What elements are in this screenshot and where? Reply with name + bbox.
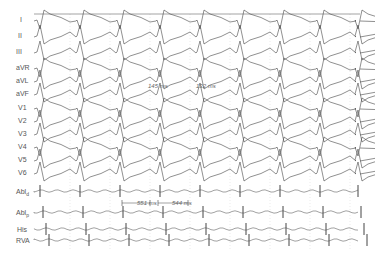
lead-label-V6: V6 — [18, 169, 27, 176]
ecg-figure: I II III aVR aVL aVF V1 V2 V3 V4 V5 V6 A… — [0, 0, 375, 267]
channel-label-his: His — [17, 226, 27, 233]
interval-annotation-2: 132 ms — [196, 83, 216, 89]
lead-label-V3: V3 — [18, 130, 27, 137]
lead-label-V5: V5 — [18, 156, 27, 163]
channel-label-abl-proximal: Ablp — [16, 209, 29, 219]
lead-label-V2: V2 — [18, 117, 27, 124]
lead-label-aVR: aVR — [16, 64, 30, 71]
cycle-length-annotation-1: 551 ms — [137, 200, 157, 206]
lead-label-II: II — [18, 32, 22, 39]
lead-label-V4: V4 — [18, 143, 27, 150]
channel-label-rva: RVA — [16, 237, 30, 244]
lead-label-aVF: aVF — [16, 90, 29, 97]
lead-label-III: III — [16, 48, 22, 55]
lead-label-aVL: aVL — [16, 77, 28, 84]
lead-label-V1: V1 — [18, 104, 27, 111]
cycle-length-annotation-2: 544 ms — [172, 200, 192, 206]
interval-annotation-1: 145 ms — [148, 83, 168, 89]
lead-label-I: I — [20, 16, 22, 23]
ecg-traces — [0, 0, 375, 267]
channel-label-abl-distal: Abld — [16, 188, 29, 198]
